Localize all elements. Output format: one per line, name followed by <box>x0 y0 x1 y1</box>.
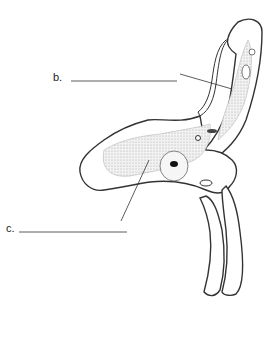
label-b-leader <box>180 74 232 89</box>
left-lobe <box>80 116 237 193</box>
diagram-stage: b. c. <box>0 0 267 341</box>
lower-stem <box>200 186 243 296</box>
cross-section-drawing <box>0 0 267 341</box>
label-c: c. <box>6 222 15 234</box>
label-b: b. <box>53 71 62 83</box>
